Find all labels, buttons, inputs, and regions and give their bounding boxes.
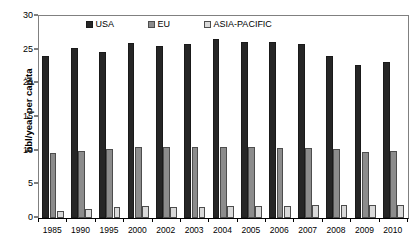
x-tick-label: 1985 [43, 225, 62, 235]
x-tick-label: 2004 [213, 225, 232, 235]
bar-eu-2003 [192, 147, 199, 218]
x-tick-label: 2003 [185, 225, 204, 235]
bar-eu-2008 [333, 149, 340, 218]
x-tick-mark [265, 218, 266, 222]
bar-asia-pacific-2000 [142, 206, 149, 218]
bar-eu-2000 [135, 147, 142, 218]
bar-asia-pacific-1985 [57, 211, 64, 218]
bar-usa-2010 [383, 62, 390, 218]
bar-usa-1995 [99, 52, 106, 218]
x-tick-label: 2010 [383, 225, 402, 235]
y-tick-label: 0 [28, 212, 33, 222]
bar-eu-1995 [106, 149, 113, 218]
x-tick-label: 2007 [298, 225, 317, 235]
bar-asia-pacific-1995 [114, 207, 121, 218]
x-tick-label: 2000 [128, 225, 147, 235]
x-tick-mark [379, 218, 380, 222]
bar-asia-pacific-2010 [397, 205, 404, 218]
bar-eu-2004 [220, 147, 227, 218]
x-tick-label: 2002 [156, 225, 175, 235]
y-tick-label: 15 [23, 111, 33, 121]
bar-eu-2010 [390, 151, 397, 218]
x-tick-label: 2005 [241, 225, 260, 235]
chart-legend: USAEUASIA-PACIFIC [86, 20, 272, 29]
bar-eu-2007 [305, 148, 312, 218]
bars-layer [39, 16, 408, 218]
bar-asia-pacific-2009 [369, 205, 376, 218]
x-tick-label: 2008 [327, 225, 346, 235]
bar-usa-2002 [156, 46, 163, 218]
x-tick-mark [293, 218, 294, 222]
y-tick-label: 20 [23, 77, 33, 87]
x-tick-mark [407, 218, 408, 222]
x-tick-mark [123, 218, 124, 222]
x-tick-label: 1995 [99, 225, 118, 235]
x-tick-label: 2009 [355, 225, 374, 235]
y-tick-label: 5 [28, 178, 33, 188]
bar-usa-2005 [241, 42, 248, 218]
bar-eu-2002 [163, 147, 170, 218]
bar-asia-pacific-2004 [227, 206, 234, 218]
bar-usa-2009 [355, 65, 362, 218]
x-tick-mark [152, 218, 153, 222]
legend-swatch-icon [204, 21, 211, 28]
bar-asia-pacific-2003 [199, 207, 206, 218]
y-tick-label: 25 [23, 44, 33, 54]
x-axis-ticks: 1985199019952000200220032004200520062007… [38, 218, 409, 248]
legend-swatch-icon [148, 21, 155, 28]
x-tick-mark [350, 218, 351, 222]
legend-swatch-icon [86, 21, 93, 28]
bar-usa-2006 [269, 42, 276, 218]
bar-eu-2009 [362, 152, 369, 218]
y-axis-ticks: 051015202530 [0, 0, 38, 218]
x-tick-mark [208, 218, 209, 222]
legend-label: ASIA-PACIFIC [214, 20, 272, 29]
bar-eu-2005 [248, 147, 255, 218]
bar-eu-1990 [78, 151, 85, 218]
legend-item-asia-pacific: ASIA-PACIFIC [204, 20, 272, 29]
y-tick-label: 10 [23, 145, 33, 155]
x-tick-mark [237, 218, 238, 222]
bar-eu-1985 [50, 153, 57, 218]
x-tick-label: 1990 [71, 225, 90, 235]
legend-item-usa: USA [86, 20, 114, 29]
bar-asia-pacific-2007 [312, 205, 319, 218]
legend-label: USA [96, 20, 115, 29]
bar-usa-2000 [128, 43, 135, 218]
legend-label: EU [158, 20, 171, 29]
bar-asia-pacific-2008 [341, 205, 348, 218]
x-tick-label: 2006 [270, 225, 289, 235]
x-tick-mark [180, 218, 181, 222]
bar-asia-pacific-2005 [255, 206, 262, 218]
x-tick-mark [38, 218, 39, 222]
y-tick-label: 30 [23, 10, 33, 20]
bar-usa-2004 [213, 39, 220, 218]
bar-eu-2006 [277, 148, 284, 218]
bar-usa-1985 [42, 56, 49, 218]
legend-item-eu: EU [148, 20, 170, 29]
x-tick-mark [95, 218, 96, 222]
bar-usa-2003 [184, 44, 191, 218]
bar-asia-pacific-2002 [170, 207, 177, 218]
bar-usa-2008 [326, 56, 333, 218]
x-tick-mark [322, 218, 323, 222]
x-tick-mark [66, 218, 67, 222]
bar-usa-2007 [298, 44, 305, 218]
bar-asia-pacific-1990 [85, 209, 92, 218]
bar-usa-1990 [71, 48, 78, 218]
plot-area [38, 15, 409, 219]
bar-asia-pacific-2006 [284, 206, 291, 218]
bar-chart: bbl/year per capita 051015202530 USAEUAS… [0, 0, 417, 249]
